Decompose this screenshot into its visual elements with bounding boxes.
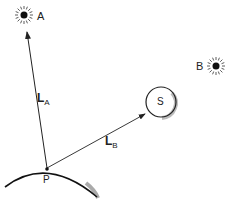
vector-la-subscript: A [44,98,49,107]
vector-lb-label: LB [105,135,118,147]
diagram-canvas: A B S P LA LB [0,0,233,205]
vector-la-label: LA [37,92,50,104]
diagram-graphics [0,0,233,205]
star-b-label: B [196,61,203,72]
planet-surface-arc [5,173,98,198]
vector-lb-subscript: B [112,141,117,150]
star-b-icon [207,57,225,75]
star-a-icon [15,6,33,24]
point-p-marker [45,167,49,171]
star-a-label: A [37,11,44,22]
point-p-label: P [43,175,50,185]
vector-lb-arrow [47,114,145,168]
sun-s-label: S [157,97,164,107]
